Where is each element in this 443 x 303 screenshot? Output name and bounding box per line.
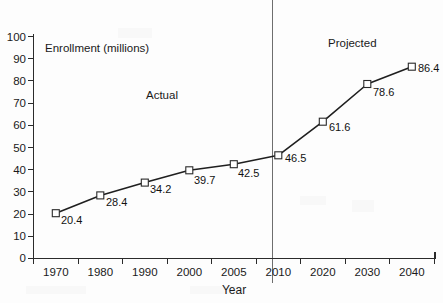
- y-tick-label: 20: [13, 208, 26, 220]
- y-tick-label: 60: [13, 119, 26, 131]
- data-point-label: 46.5: [285, 152, 306, 164]
- data-point-label: 42.5: [238, 167, 259, 179]
- data-point-marker[interactable]: [141, 179, 148, 186]
- chart-canvas: 100 90 80 70 60 50 40 30 20 10 0 1970 19…: [0, 0, 443, 303]
- y-tick-label: 100: [7, 31, 26, 43]
- y-tick-label: 70: [13, 97, 26, 109]
- x-tick-marks: [34, 259, 435, 265]
- y-tick-label: 90: [13, 53, 26, 65]
- data-point-marker[interactable]: [97, 192, 104, 199]
- actual-region-label: Actual: [146, 89, 178, 101]
- data-point-marker[interactable]: [319, 118, 326, 125]
- x-axis-tick-labels: 1970 1980 1990 2000 2005 2010 2020 2030 …: [43, 266, 425, 278]
- y-tick-label: 80: [13, 75, 26, 87]
- x-tick-label: 2000: [177, 266, 203, 278]
- data-point-label: 34.2: [150, 183, 171, 195]
- x-tick-label: 1970: [43, 266, 69, 278]
- units-note-label: Enrollment (millions): [45, 42, 149, 54]
- y-tick-label: 10: [13, 230, 26, 242]
- enrollment-series-line: [56, 67, 412, 214]
- x-tick-label: 2040: [399, 266, 425, 278]
- data-point-label: 78.6: [373, 86, 394, 98]
- data-point-marker[interactable]: [52, 210, 59, 217]
- data-point-marker[interactable]: [364, 81, 371, 88]
- projected-region-label: Projected: [328, 37, 377, 49]
- x-tick-label: 1980: [88, 266, 114, 278]
- data-point-marker[interactable]: [230, 161, 237, 168]
- data-point-label: 86.4: [418, 62, 439, 74]
- y-axis-tick-labels: 100 90 80 70 60 50 40 30 20 10 0: [7, 31, 26, 264]
- x-axis-title: Year: [222, 283, 246, 297]
- x-tick-label: 2005: [221, 266, 247, 278]
- data-point-marker[interactable]: [408, 63, 415, 70]
- x-tick-label: 1990: [132, 266, 158, 278]
- data-point-label: 20.4: [61, 214, 82, 226]
- y-tick-label: 50: [13, 142, 26, 154]
- y-tick-label: 0: [20, 252, 26, 264]
- data-point-marker[interactable]: [186, 167, 193, 174]
- data-point-labels: 20.4 28.4 34.2 39.7 42.5 46.5 61.6 78.6 …: [61, 62, 439, 226]
- x-tick-label: 2030: [355, 266, 381, 278]
- data-point-label: 39.7: [194, 174, 215, 186]
- y-tick-marks: [28, 37, 34, 259]
- enrollment-line-chart: 100 90 80 70 60 50 40 30 20 10 0 1970 19…: [0, 0, 443, 303]
- data-point-marker[interactable]: [275, 152, 282, 159]
- x-tick-label: 2020: [310, 266, 336, 278]
- data-point-label: 28.4: [106, 196, 127, 208]
- y-tick-label: 40: [13, 164, 26, 176]
- data-point-label: 61.6: [329, 121, 350, 133]
- x-tick-label: 2010: [266, 266, 292, 278]
- y-tick-label: 30: [13, 186, 26, 198]
